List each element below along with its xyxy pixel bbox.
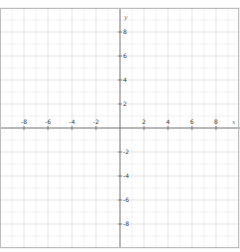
y-tick-label: -4 (123, 172, 129, 179)
x-tick-label: -4 (69, 118, 75, 125)
y-tick-label: 2 (123, 100, 127, 107)
x-tick-label: -8 (21, 118, 27, 125)
y-tick-label: 4 (123, 76, 127, 83)
y-axis-label: y (123, 13, 128, 21)
y-tick-label: 8 (123, 28, 127, 35)
x-tick-label: 6 (190, 118, 194, 125)
coordinate-plane: -8-6-4-22468 8642-2-4-6-8 x y (0, 0, 240, 252)
y-tick-label: -2 (123, 148, 129, 155)
y-tick-label: -8 (123, 220, 129, 227)
x-tick-label: -6 (45, 118, 51, 125)
x-tick-label: 4 (166, 118, 170, 125)
x-tick-label: -2 (93, 118, 99, 125)
x-tick-label: 8 (214, 118, 218, 125)
y-tick-label: -6 (123, 196, 129, 203)
x-tick-label: 2 (142, 118, 146, 125)
y-tick-label: 6 (123, 52, 127, 59)
